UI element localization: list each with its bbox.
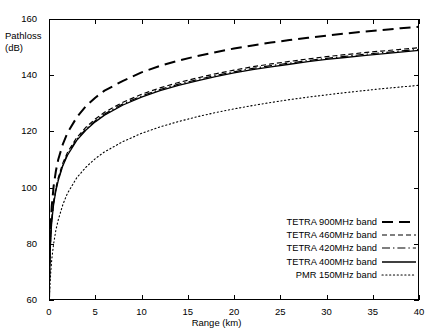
y-tick-label: 140 (0, 70, 37, 79)
legend-key-1 (381, 230, 417, 240)
y-axis-title-line2: (dB) (5, 42, 41, 54)
legend-item[interactable]: TETRA 900MHz band (243, 215, 417, 228)
chart-legend: TETRA 900MHz bandTETRA 460MHz bandTETRA … (243, 215, 417, 282)
x-tick (419, 295, 420, 300)
y-tick-label: 120 (0, 126, 37, 135)
chart-container: Pathloss (dB) Range (km) 608010012014016… (0, 0, 433, 336)
legend-item[interactable]: TETRA 460MHz band (243, 228, 417, 241)
legend-key-0 (381, 217, 417, 227)
x-tick-label: 20 (214, 306, 254, 317)
legend-label: PMR 150MHz band (296, 270, 377, 280)
x-tick-label: 35 (353, 306, 393, 317)
y-tick-label: 80 (0, 239, 37, 248)
legend-item[interactable]: TETRA 420MHz band (243, 242, 417, 255)
legend-label: TETRA 460MHz band (287, 230, 377, 240)
x-axis-title: Range (km) (0, 317, 433, 328)
x-tick-top (419, 19, 420, 24)
y-tick-label: 100 (0, 183, 37, 192)
x-tick-label: 5 (75, 306, 115, 317)
legend-key-4 (381, 270, 417, 280)
x-tick-label: 40 (399, 306, 433, 317)
x-tick-label: 30 (307, 306, 347, 317)
legend-key-3 (381, 257, 417, 267)
y-tick-label: 160 (0, 14, 37, 23)
legend-item[interactable]: TETRA 400MHz band (243, 255, 417, 268)
y-tick (49, 300, 54, 301)
y-axis-title: Pathloss (dB) (5, 30, 41, 53)
y-tick-label: 60 (0, 295, 37, 304)
y-tick-right (414, 300, 419, 301)
x-tick-label: 0 (29, 306, 69, 317)
x-tick-label: 25 (260, 306, 300, 317)
x-tick-label: 10 (122, 306, 162, 317)
legend-item[interactable]: PMR 150MHz band (243, 269, 417, 282)
legend-label: TETRA 400MHz band (287, 257, 377, 267)
legend-key-2 (381, 243, 417, 253)
x-tick-label: 15 (168, 306, 208, 317)
legend-label: TETRA 900MHz band (287, 217, 377, 227)
y-axis-title-line1: Pathloss (5, 30, 41, 42)
legend-label: TETRA 420MHz band (287, 243, 377, 253)
